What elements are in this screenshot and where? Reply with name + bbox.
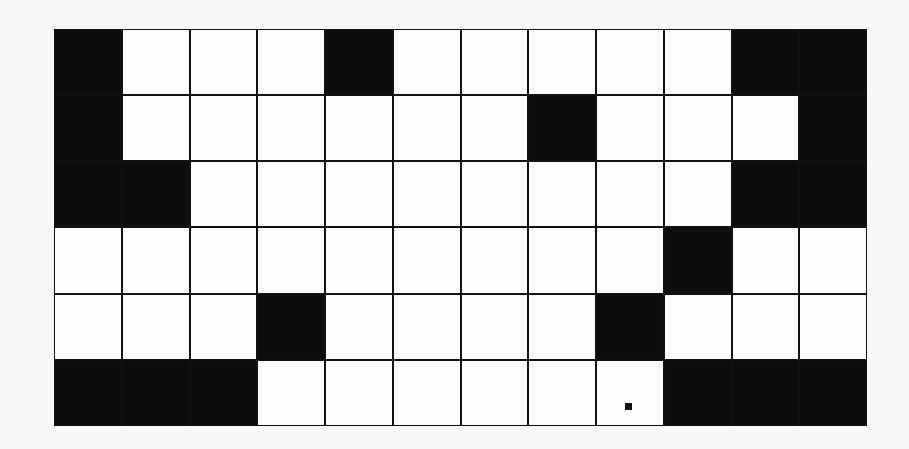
grid-cell-filled[interactable] <box>665 228 731 292</box>
grid-cell-empty[interactable] <box>258 361 324 425</box>
grid-cell-empty[interactable] <box>529 361 595 425</box>
grid-cell-empty[interactable] <box>258 228 324 292</box>
grid-cell-empty[interactable] <box>529 30 595 94</box>
grid-cell-filled[interactable] <box>800 96 866 160</box>
puzzle-grid <box>54 29 867 426</box>
grid-cell-empty[interactable] <box>733 228 799 292</box>
grid-cell-empty[interactable] <box>191 228 257 292</box>
grid-cell-empty[interactable] <box>462 96 528 160</box>
grid-cell-empty[interactable] <box>123 30 189 94</box>
grid-cell-empty[interactable] <box>55 228 121 292</box>
grid-cell-empty[interactable] <box>258 162 324 226</box>
grid-cell-empty[interactable] <box>665 162 731 226</box>
grid-cell-empty[interactable] <box>191 30 257 94</box>
grid-cell-filled[interactable] <box>529 96 595 160</box>
grid-cell-empty[interactable] <box>55 295 121 359</box>
grid-cell-filled[interactable] <box>191 361 257 425</box>
grid-cell-empty[interactable] <box>258 96 324 160</box>
grid-cell-filled[interactable] <box>123 162 189 226</box>
grid-cell-empty[interactable] <box>394 30 460 94</box>
grid-cell-filled[interactable] <box>800 30 866 94</box>
grid-cell-filled[interactable] <box>733 30 799 94</box>
grid-cell-empty[interactable] <box>123 295 189 359</box>
grid-cell-empty[interactable] <box>394 162 460 226</box>
grid-cell-empty[interactable] <box>665 295 731 359</box>
grid-cell-empty[interactable] <box>191 295 257 359</box>
small-square-marker-icon <box>625 403 632 410</box>
grid-cell-empty[interactable] <box>394 96 460 160</box>
grid-cell-filled[interactable] <box>123 361 189 425</box>
grid-cell-empty[interactable] <box>529 162 595 226</box>
grid-cell-empty[interactable] <box>733 96 799 160</box>
grid-cell-empty[interactable] <box>800 228 866 292</box>
grid-cell-filled[interactable] <box>55 162 121 226</box>
grid-cell-empty[interactable] <box>597 96 663 160</box>
grid-cell-empty[interactable] <box>462 361 528 425</box>
grid-cell-empty[interactable] <box>800 295 866 359</box>
grid-cell-filled[interactable] <box>55 30 121 94</box>
grid-cell-filled[interactable] <box>665 361 731 425</box>
grid-cell-filled[interactable] <box>326 30 392 94</box>
grid-cell-empty[interactable] <box>326 162 392 226</box>
grid-cell-empty[interactable] <box>123 96 189 160</box>
grid-cell-filled[interactable] <box>733 361 799 425</box>
grid-cell-filled[interactable] <box>800 361 866 425</box>
grid-cell-empty[interactable] <box>258 30 324 94</box>
grid-cell-empty[interactable] <box>326 96 392 160</box>
grid-cell-filled[interactable] <box>55 96 121 160</box>
grid-cell-empty[interactable] <box>462 295 528 359</box>
grid-cell-filled[interactable] <box>258 295 324 359</box>
grid-cell-filled[interactable] <box>597 295 663 359</box>
grid-cell-empty[interactable] <box>597 228 663 292</box>
grid-cell-filled[interactable] <box>733 162 799 226</box>
grid-cell-filled[interactable] <box>55 361 121 425</box>
grid-cell-empty[interactable] <box>462 30 528 94</box>
grid-cell-empty[interactable] <box>326 295 392 359</box>
grid-cell-empty[interactable] <box>665 96 731 160</box>
grid-cell-empty[interactable] <box>123 228 189 292</box>
grid-cell-empty[interactable] <box>462 162 528 226</box>
grid-cell-empty[interactable] <box>665 30 731 94</box>
grid-cell-empty[interactable] <box>529 228 595 292</box>
grid-cell-empty[interactable] <box>191 162 257 226</box>
grid-cell-empty[interactable] <box>394 361 460 425</box>
grid-cell-empty[interactable] <box>597 30 663 94</box>
grid-cell-filled[interactable] <box>800 162 866 226</box>
grid-cell-empty[interactable] <box>597 162 663 226</box>
grid-cell-empty[interactable] <box>191 96 257 160</box>
grid-cell-empty[interactable] <box>394 228 460 292</box>
grid-cell-empty[interactable] <box>326 361 392 425</box>
grid-cell-empty[interactable] <box>326 228 392 292</box>
grid-cell-empty[interactable] <box>597 361 663 425</box>
grid-cell-empty[interactable] <box>462 228 528 292</box>
grid-cell-empty[interactable] <box>394 295 460 359</box>
grid-cell-empty[interactable] <box>733 295 799 359</box>
grid-cell-empty[interactable] <box>529 295 595 359</box>
